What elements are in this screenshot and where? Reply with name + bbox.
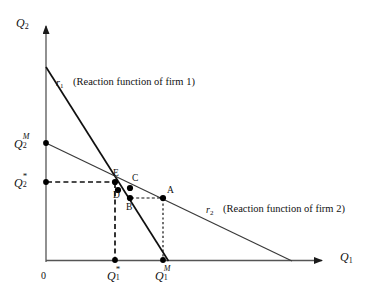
dot-q2-monopoly (43, 140, 49, 146)
dot-q1-monopoly (160, 257, 166, 263)
x-axis-label: Q1 (340, 251, 353, 263)
point-dot-A (160, 195, 166, 201)
point-dot-B (127, 195, 133, 201)
diagram-canvas (0, 0, 365, 297)
reaction-function-firm-2-line (46, 143, 292, 261)
reaction-function-firm-1-label: r1 (56, 78, 63, 88)
point-label-C: C (132, 174, 138, 184)
reaction-function-firm-2-caption: (Reaction function of firm 2) (223, 204, 345, 215)
point-label-B: B (126, 203, 132, 213)
point-dot-E (112, 179, 118, 185)
y-tick-label-q2-monopoly: QM2 (14, 136, 28, 150)
reaction-function-firm-1-line (46, 67, 169, 261)
x-tick-label-q1-star: Q*1 (107, 268, 121, 282)
point-label-D: D (113, 191, 120, 201)
point-dot-C (127, 185, 133, 191)
reaction-function-firm-2-label: r2 (206, 205, 213, 215)
origin-label: 0 (41, 271, 46, 281)
reaction-function-firm-1-caption: (Reaction function of firm 1) (73, 77, 195, 88)
dot-q2-star (43, 179, 49, 185)
x-tick-label-q1-monopoly: QM1 (155, 268, 169, 282)
cournot-reaction-function-figure: Q2 Q1 0 r1 (Reaction function of firm 1)… (0, 0, 365, 297)
point-label-A: A (167, 186, 174, 196)
point-label-E: E (113, 169, 119, 179)
dot-q1-star (112, 257, 118, 263)
y-tick-label-q2-star: Q*2 (14, 175, 28, 189)
y-axis-label: Q2 (16, 17, 29, 29)
